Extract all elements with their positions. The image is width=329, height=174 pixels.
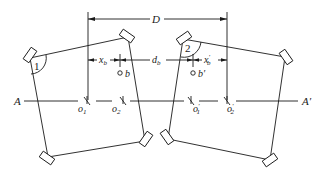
point-o1-prime: o′1 xyxy=(188,96,200,116)
dim-db-label: db xyxy=(152,54,161,67)
dim-xbp-label: x′b xyxy=(203,53,211,67)
arrow-left-icon xyxy=(193,58,199,61)
body-2-pad-bottom-right xyxy=(262,153,277,167)
point-b-prime: b′ xyxy=(191,68,206,79)
diagram-canvas: 1 2 D xb db x′b xyxy=(0,0,329,174)
arrow-left-icon xyxy=(120,58,126,61)
point-b-prime-marker xyxy=(191,71,195,75)
point-o1-label: o1 xyxy=(78,103,87,116)
point-o1-prime-label: o′1 xyxy=(193,102,200,116)
point-b-prime-label: b′ xyxy=(198,68,206,79)
body-2: 2 xyxy=(160,31,293,167)
body-2-pad-top-right xyxy=(279,49,293,64)
point-b: b xyxy=(118,68,130,79)
arrow-left-icon xyxy=(88,58,94,61)
diagram-svg: 1 2 D xb db x′b xyxy=(0,0,329,174)
axis-A-A-prime: A A′ xyxy=(13,95,312,107)
body-2-pad-bottom-left xyxy=(160,129,174,144)
body-1-pad-top-right xyxy=(119,29,134,43)
point-o2-label: o2 xyxy=(112,103,121,116)
body-2-number: 2 xyxy=(185,42,191,54)
arrow-right-icon xyxy=(221,58,227,61)
arrow-left-icon xyxy=(88,17,95,21)
body-2-angle-arc xyxy=(181,42,201,57)
body-1-pad-bottom-left xyxy=(39,151,54,165)
body-1-number: 1 xyxy=(34,60,40,72)
dimension-D-label: D xyxy=(151,13,160,25)
dim-xb-label: xb xyxy=(98,54,107,67)
arrow-right-icon xyxy=(114,58,120,61)
axis-label-A: A xyxy=(13,95,21,107)
dimension-row: xb db x′b xyxy=(88,53,227,67)
point-b-marker xyxy=(118,71,122,75)
point-b-label: b xyxy=(125,68,130,79)
point-o2-prime: o′2 xyxy=(224,96,235,116)
dimension-D: D xyxy=(88,13,227,25)
arrow-right-icon xyxy=(187,58,193,61)
point-o2: o2 xyxy=(112,96,126,116)
arrow-right-icon xyxy=(220,17,227,21)
point-o2-prime-label: o′2 xyxy=(227,102,235,116)
axis-label-A-prime: A′ xyxy=(301,95,312,107)
body-1-outline xyxy=(30,37,145,157)
body-1-pad-bottom-right xyxy=(139,131,153,146)
